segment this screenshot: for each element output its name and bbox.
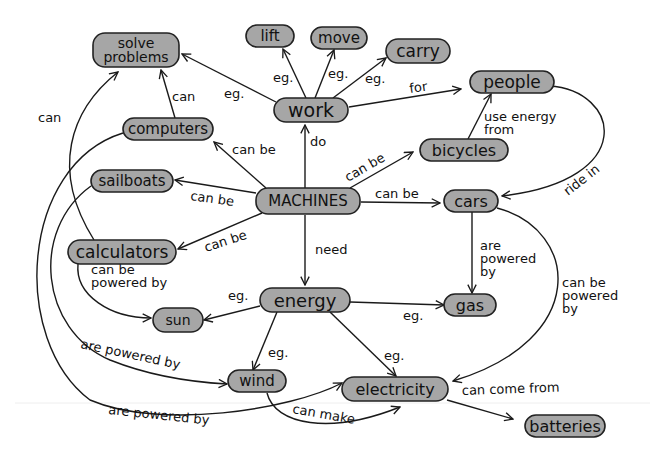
node-computers: computers: [123, 118, 213, 140]
node-label: electricity: [355, 380, 434, 399]
node-label: energy: [274, 290, 337, 311]
edge-label: eg.: [328, 66, 348, 81]
node-gas: gas: [444, 294, 496, 316]
node-energy: energy: [260, 288, 350, 312]
node-sun: sun: [153, 308, 203, 332]
concept-map: eg.eg.eg.eg.fordocan becan becan becan b…: [0, 0, 650, 454]
edge-label: eg.: [273, 70, 293, 85]
edge-label: arepoweredby: [480, 238, 536, 279]
node-label: lift: [260, 27, 279, 45]
edge-label: eg.: [365, 71, 385, 86]
edge-label: can be: [190, 188, 235, 209]
node-label: people: [483, 72, 541, 92]
node-batteries: batteries: [525, 415, 605, 437]
edge-label: can be: [375, 186, 419, 201]
edge-label: can be: [232, 142, 276, 157]
node-label: carry: [396, 41, 440, 61]
edge-label: can come from: [462, 380, 560, 398]
edge-energy-to-electricity: [330, 312, 396, 376]
node-label: batteries: [529, 417, 601, 436]
node-label: cars: [454, 192, 488, 211]
edge-computers-to-electricity: [37, 133, 342, 415]
edge-label: eg.: [268, 345, 288, 360]
node-label: MACHINES: [268, 192, 347, 210]
node-label: sailboats: [99, 172, 166, 190]
node-calculators: calculators: [68, 240, 176, 264]
node-label: bicycles: [432, 141, 496, 160]
node-machines: MACHINES: [256, 188, 360, 214]
edge-machines-to-cars: [361, 202, 440, 203]
edge-label: for: [408, 79, 428, 96]
node-bicycles: bicycles: [420, 139, 508, 161]
edge-energy-to-gas: [350, 302, 444, 305]
edge-calculators-to-solve-problems: [70, 72, 118, 240]
node-label: computers: [128, 120, 208, 138]
edge-label: can: [38, 110, 61, 125]
node-solve-problems: solveproblems: [93, 33, 179, 67]
node-label: wind: [239, 372, 274, 390]
edge-label: eg.: [403, 308, 423, 323]
node-people: people: [470, 71, 554, 93]
node-cars: cars: [444, 190, 498, 212]
edge-energy-to-sun: [204, 306, 260, 320]
edge-work-to-people: [349, 89, 461, 107]
nodes-layer: MACHINESworkliftmovecarrysolveproblemspe…: [68, 25, 605, 437]
edge-label: eg.: [228, 288, 248, 303]
edge-label: can bepoweredby: [562, 275, 618, 316]
node-label: work: [288, 99, 334, 121]
edge-label: use energyfrom: [484, 109, 557, 137]
node-label: gas: [456, 296, 484, 315]
node-move: move: [311, 27, 367, 49]
edge-label: eg.: [384, 348, 404, 363]
edge-energy-to-wind: [253, 312, 277, 370]
edge-label: can be: [202, 227, 248, 255]
edge-label: are powered by: [108, 402, 211, 428]
edge-label: can bepowered by: [91, 262, 168, 290]
node-carry: carry: [386, 39, 450, 63]
edge-label: eg.: [224, 86, 244, 101]
node-sailboats: sailboats: [91, 170, 173, 192]
node-label: move: [318, 29, 360, 47]
edge-label: do: [310, 134, 326, 149]
node-label: sun: [165, 312, 190, 328]
node-electricity: electricity: [342, 377, 448, 401]
node-label: calculators: [76, 242, 169, 262]
node-wind: wind: [228, 370, 286, 392]
edge-label: need: [315, 242, 348, 257]
edge-label: can: [172, 89, 195, 104]
node-work: work: [274, 98, 348, 122]
node-lift: lift: [246, 25, 294, 47]
edge-label: ride in: [561, 161, 603, 198]
